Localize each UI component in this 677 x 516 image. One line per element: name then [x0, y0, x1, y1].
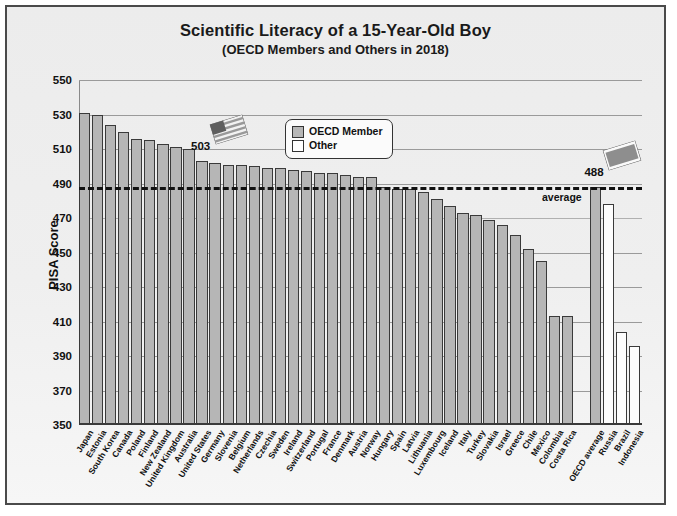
- bar-ireland[interactable]: [288, 170, 299, 425]
- bar-denmark[interactable]: [340, 175, 351, 425]
- bar-south-korea[interactable]: [105, 125, 116, 425]
- bar-israel[interactable]: [497, 225, 508, 425]
- y-axis-tick-label: 470: [53, 212, 72, 224]
- bar-france[interactable]: [327, 173, 338, 425]
- bar-hungary[interactable]: [379, 187, 390, 425]
- y-axis-tick-label: 510: [53, 143, 72, 155]
- bar-slovenia[interactable]: [223, 165, 234, 425]
- bar-canada[interactable]: [118, 132, 129, 425]
- bar-colombia[interactable]: [549, 316, 560, 425]
- y-axis-tick-label: 530: [53, 109, 72, 121]
- bar-germany[interactable]: [209, 163, 220, 425]
- bar-spain[interactable]: [392, 189, 403, 425]
- bar-australia[interactable]: [183, 149, 194, 425]
- legend-swatch-icon: [292, 126, 304, 138]
- bar-sweden[interactable]: [275, 168, 286, 425]
- y-axis-tick-label: 450: [53, 247, 72, 259]
- legend-item-oecd-member: OECD Member: [292, 125, 383, 138]
- page-title: Scientific Literacy of a 15-Year-Old Boy: [7, 21, 664, 40]
- bar-costa-rica[interactable]: [562, 316, 573, 425]
- average-line: [79, 187, 642, 190]
- x-axis-line: [79, 423, 642, 425]
- y-axis-tick-label: 490: [53, 178, 72, 190]
- legend-label: Other: [309, 140, 337, 151]
- bar-united-states[interactable]: [196, 161, 207, 425]
- bar-turkey[interactable]: [470, 215, 481, 425]
- bar-czechia[interactable]: [262, 168, 273, 425]
- bar-indonesia[interactable]: [629, 346, 640, 425]
- title-block: Scientific Literacy of a 15-Year-Old Boy…: [7, 21, 664, 58]
- x-axis-labels: JapanEstoniaSouth KoreaCanadaPolandFinla…: [79, 428, 642, 516]
- bar-finland[interactable]: [144, 140, 155, 425]
- bar-estonia[interactable]: [92, 115, 103, 426]
- bar-japan[interactable]: [79, 113, 90, 425]
- legend-label: OECD Member: [309, 126, 383, 137]
- y-axis-tick-label: 430: [53, 281, 72, 293]
- bar-lithuania[interactable]: [418, 192, 429, 425]
- bar-italy[interactable]: [457, 213, 468, 425]
- bar-switzerland[interactable]: [301, 171, 312, 425]
- bar-norway[interactable]: [366, 177, 377, 425]
- bar-slovakia[interactable]: [483, 220, 494, 425]
- bar-belgium[interactable]: [236, 165, 247, 425]
- bar-latvia[interactable]: [405, 189, 416, 425]
- bar-austria[interactable]: [353, 177, 364, 425]
- bar-brazil[interactable]: [616, 332, 627, 425]
- legend-item-other: Other: [292, 139, 383, 152]
- y-axis-tick-label: 350: [53, 419, 72, 431]
- bar-poland[interactable]: [131, 139, 142, 425]
- y-axis-tick-label: 410: [53, 316, 72, 328]
- chart-subtitle: (OECD Members and Others in 2018): [7, 41, 664, 58]
- y-axis-tick-label: 370: [53, 385, 72, 397]
- average-line-label: average: [542, 191, 582, 203]
- bar-chile[interactable]: [523, 249, 534, 425]
- chart-frame: Scientific Literacy of a 15-Year-Old Boy…: [5, 5, 666, 505]
- bar-iceland[interactable]: [444, 206, 455, 425]
- bar-oecd-average[interactable]: [590, 187, 601, 425]
- bar-greece[interactable]: [510, 235, 521, 425]
- bar-mexico[interactable]: [536, 261, 547, 425]
- us-flag-callout: 503: [191, 140, 210, 152]
- bar-luxembourg[interactable]: [431, 199, 442, 425]
- legend-swatch-icon: [292, 140, 304, 152]
- bar-russia[interactable]: [603, 204, 614, 425]
- y-axis-tick-label: 390: [53, 350, 72, 362]
- oecd-average-callout: 488: [584, 166, 603, 178]
- y-axis-tick-label: 550: [53, 74, 72, 86]
- bar-netherlands[interactable]: [249, 166, 260, 425]
- bar-portugal[interactable]: [314, 173, 325, 425]
- legend: OECD Member Other: [285, 119, 393, 159]
